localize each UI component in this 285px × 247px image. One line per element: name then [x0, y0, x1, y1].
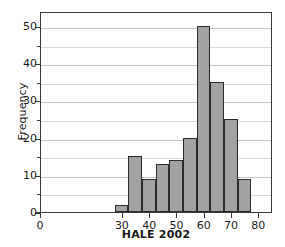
- y-tick-label: 50: [7, 21, 37, 32]
- x-tick: [40, 213, 41, 218]
- histogram-bar: [224, 119, 238, 212]
- histogram-bar: [115, 205, 129, 212]
- gridline: [41, 84, 271, 85]
- gridline: [41, 65, 271, 66]
- x-tick-label: 70: [216, 220, 246, 231]
- x-tick: [122, 213, 123, 218]
- y-tick-minor: [37, 46, 40, 47]
- y-tick-minor: [37, 120, 40, 121]
- histogram-bar: [197, 26, 211, 212]
- histogram-bar: [169, 160, 183, 212]
- histogram-bar: [238, 179, 252, 213]
- x-tick: [231, 213, 232, 218]
- gridline: [41, 102, 271, 103]
- x-tick: [204, 213, 205, 218]
- x-tick-label: 30: [107, 220, 137, 231]
- x-tick-label: 40: [134, 220, 164, 231]
- y-tick-minor: [37, 83, 40, 84]
- y-tick-label: 40: [7, 58, 37, 69]
- histogram-bar: [128, 156, 142, 212]
- gridline: [41, 28, 271, 29]
- x-tick: [258, 213, 259, 218]
- y-tick-label: 0: [7, 207, 37, 218]
- plot-area: [40, 12, 272, 213]
- x-tick: [149, 213, 150, 218]
- histogram-bar: [183, 138, 197, 212]
- y-tick-label: 10: [7, 170, 37, 181]
- y-tick-label: 20: [7, 133, 37, 144]
- x-tick-label: 50: [161, 220, 191, 231]
- x-tick-label: 60: [189, 220, 219, 231]
- y-tick-minor: [37, 194, 40, 195]
- histogram-bar: [142, 179, 156, 213]
- histogram-bar: [210, 82, 224, 212]
- histogram-figure: Frequency HALE 2002 01020304050030405060…: [0, 0, 285, 247]
- gridline: [41, 47, 271, 48]
- x-tick-label: 0: [25, 220, 55, 231]
- x-tick: [176, 213, 177, 218]
- x-tick-label: 80: [243, 220, 273, 231]
- histogram-bar: [156, 164, 170, 212]
- y-tick-label: 30: [7, 95, 37, 106]
- y-tick-minor: [37, 157, 40, 158]
